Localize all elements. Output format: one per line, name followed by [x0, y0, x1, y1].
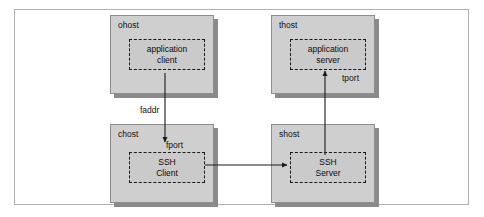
- host-label-chost: chost: [118, 129, 138, 139]
- annotation-faddr: faddr: [140, 105, 159, 115]
- component-label-line1: application: [147, 44, 188, 55]
- component-label-line2: Client: [156, 168, 178, 179]
- component-application-client: application client: [129, 39, 205, 70]
- component-label-line1: SSH: [158, 157, 175, 168]
- component-label-line2: server: [316, 55, 340, 66]
- component-label-line2: client: [157, 55, 177, 66]
- component-label-line1: SSH: [319, 157, 336, 168]
- host-label-ohost: ohost: [118, 20, 139, 30]
- annotation-tport: tport: [342, 73, 359, 83]
- component-application-server: application server: [290, 39, 366, 70]
- host-box-ohost: ohost application client: [110, 15, 214, 94]
- diagram-frame: ohost application client thost applicati…: [14, 9, 469, 205]
- component-label-line2: Server: [315, 168, 340, 179]
- host-box-thost: thost application server tport: [271, 15, 375, 94]
- annotation-fport: fport: [166, 140, 183, 150]
- host-label-shost: shost: [279, 129, 299, 139]
- component-label-line1: application: [308, 44, 349, 55]
- component-ssh-client: SSH Client: [129, 152, 205, 183]
- host-label-thost: thost: [279, 20, 297, 30]
- host-box-shost: shost SSH Server: [271, 124, 375, 203]
- diagram-canvas: ohost application client thost applicati…: [0, 0, 484, 217]
- host-box-chost: chost SSH Client fport: [110, 124, 214, 203]
- component-ssh-server: SSH Server: [290, 152, 366, 183]
